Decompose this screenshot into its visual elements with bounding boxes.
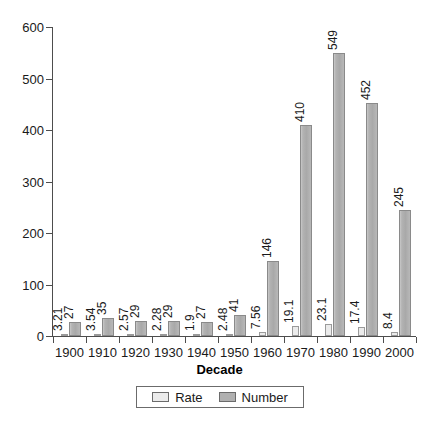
bar-rate[interactable] (259, 332, 266, 336)
y-axis-tick-label: 400 (2, 124, 44, 137)
bar-value-label-number: 245 (393, 187, 405, 207)
y-axis-tick (46, 233, 52, 234)
chart-figure: 0100200300400500600 3.21273.54352.57292.… (0, 0, 439, 422)
bar-value-label-rate: 19.1 (283, 300, 295, 323)
y-axis-label-wrap: 100 (0, 279, 44, 292)
bar-rate[interactable] (325, 324, 332, 336)
bar-number[interactable] (201, 322, 213, 336)
legend-label-number: Number (242, 391, 288, 404)
bar-value-label-rate: 17.4 (349, 301, 361, 324)
bar-group: 19.1410 (284, 27, 317, 336)
y-axis-label-wrap: 400 (0, 124, 44, 137)
y-axis-tick (46, 79, 52, 80)
x-axis-tick (317, 337, 318, 343)
bar-number[interactable] (300, 125, 312, 336)
bar-number[interactable] (366, 103, 378, 336)
bar-number[interactable] (102, 318, 114, 336)
bar-rate[interactable] (226, 334, 233, 336)
bar-value-label-rate: 7.56 (250, 306, 262, 329)
bar-value-label-number: 27 (63, 306, 75, 319)
x-axis-tick (383, 337, 384, 343)
bar-group: 2.5729 (119, 27, 152, 336)
y-axis-label-wrap: 200 (0, 227, 44, 240)
bar-rate[interactable] (193, 334, 200, 336)
legend-item-number[interactable]: Number (219, 391, 288, 404)
x-axis-line (53, 336, 416, 337)
bar-rate[interactable] (292, 326, 299, 336)
y-axis-tick (46, 336, 52, 337)
bar-rate[interactable] (127, 334, 134, 336)
x-axis-tick (119, 337, 120, 343)
plot-area: 3.21273.54352.57292.28291.9272.48417.561… (53, 27, 416, 336)
bar-group: 1.927 (185, 27, 218, 336)
bar-number[interactable] (135, 321, 147, 336)
bar-number[interactable] (267, 261, 279, 336)
legend-label-rate: Rate (175, 391, 202, 404)
y-axis-tick (46, 130, 52, 131)
bar-rate[interactable] (160, 334, 167, 336)
bar-value-label-number: 27 (195, 306, 207, 319)
bar-value-label-number: 29 (162, 305, 174, 318)
x-axis-tick (185, 337, 186, 343)
x-axis-tick-label: 2000 (379, 345, 420, 360)
x-axis-tick (218, 337, 219, 343)
bar-rate[interactable] (61, 334, 68, 336)
x-axis-tick (53, 337, 54, 343)
y-axis-label-wrap: 0 (0, 330, 44, 343)
y-axis-tick-label: 500 (2, 73, 44, 86)
bar-number[interactable] (234, 315, 246, 336)
bar-group: 17.4452 (350, 27, 383, 336)
bar-group: 23.1549 (317, 27, 350, 336)
y-axis-tick (46, 27, 52, 28)
bar-rate[interactable] (391, 332, 398, 336)
x-axis-title: Decade (0, 362, 439, 377)
y-axis-label-wrap: 600 (0, 21, 44, 34)
x-axis-tick (251, 337, 252, 343)
x-axis-tick (86, 337, 87, 343)
y-axis-label-wrap: 300 (0, 176, 44, 189)
bar-value-label-number: 146 (261, 238, 273, 258)
y-axis-tick-label: 0 (2, 330, 44, 343)
chart-legend: Rate Number (136, 386, 304, 408)
bar-group: 8.4245 (383, 27, 416, 336)
bar-number[interactable] (69, 322, 81, 336)
bar-number[interactable] (399, 210, 411, 336)
bar-value-label-number: 452 (360, 80, 372, 100)
bar-group: 2.4841 (218, 27, 251, 336)
legend-swatch-number-icon (219, 392, 236, 402)
y-axis-label-wrap: 500 (0, 73, 44, 86)
bar-rate[interactable] (94, 334, 101, 336)
bar-group: 3.5435 (86, 27, 119, 336)
bar-value-label-number: 29 (129, 305, 141, 318)
bar-rate[interactable] (358, 327, 365, 336)
bar-number[interactable] (333, 53, 345, 336)
bar-value-label-rate: 8.4 (382, 312, 394, 329)
bar-group: 2.2829 (152, 27, 185, 336)
y-axis-tick-label: 300 (2, 176, 44, 189)
y-axis-tick-label: 200 (2, 227, 44, 240)
x-axis-tick (152, 337, 153, 343)
bar-value-label-number: 549 (327, 30, 339, 50)
x-axis-tick (350, 337, 351, 343)
bar-value-label-number: 41 (228, 299, 240, 312)
y-axis-tick (46, 182, 52, 183)
bar-value-label-rate: 23.1 (316, 298, 328, 321)
y-axis-tick-label: 100 (2, 279, 44, 292)
bar-value-label-number: 35 (96, 302, 108, 315)
bar-group: 3.2127 (53, 27, 86, 336)
bar-group: 7.56146 (251, 27, 284, 336)
bar-number[interactable] (168, 321, 180, 336)
y-axis-tick (46, 285, 52, 286)
bar-value-label-number: 410 (294, 102, 306, 122)
legend-swatch-rate-icon (152, 392, 169, 402)
legend-item-rate[interactable]: Rate (152, 391, 202, 404)
y-axis-tick-label: 600 (2, 21, 44, 34)
x-axis-tick (284, 337, 285, 343)
x-axis-tick (416, 337, 417, 343)
